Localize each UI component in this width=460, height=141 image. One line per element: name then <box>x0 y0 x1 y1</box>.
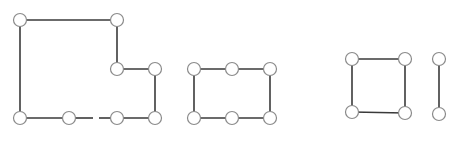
nodes-layer <box>14 14 446 125</box>
node-circle <box>346 106 359 119</box>
node-circle <box>433 108 446 121</box>
node-circle <box>149 112 162 125</box>
node-circle <box>14 112 27 125</box>
node-circle <box>399 107 412 120</box>
node-circle <box>346 53 359 66</box>
node-circle <box>14 14 27 27</box>
edge <box>352 112 405 113</box>
component-3-edges <box>352 59 405 113</box>
node-circle <box>111 14 124 27</box>
component-1-edges <box>20 20 155 118</box>
node-circle <box>264 63 277 76</box>
node-circle <box>63 112 76 125</box>
node-circle <box>433 53 446 66</box>
node-circle <box>188 63 201 76</box>
component-2-edges <box>194 69 270 118</box>
component-2 <box>188 63 277 125</box>
graph-diagram <box>0 0 460 141</box>
node-circle <box>226 112 239 125</box>
node-circle <box>111 63 124 76</box>
node-circle <box>111 112 124 125</box>
node-circle <box>149 63 162 76</box>
node-circle <box>188 112 201 125</box>
node-circle <box>226 63 239 76</box>
node-circle <box>399 53 412 66</box>
node-circle <box>264 112 277 125</box>
component-3 <box>346 53 412 120</box>
